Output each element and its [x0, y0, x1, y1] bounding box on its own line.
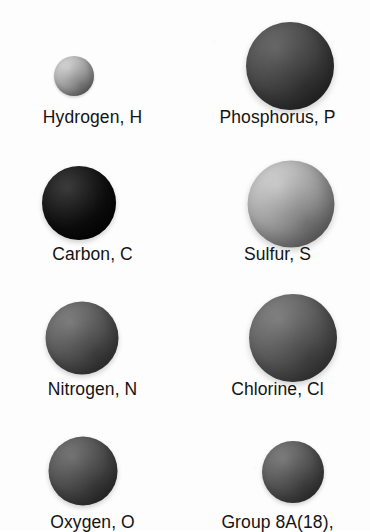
atom-sphere-nitrogen: [46, 302, 119, 375]
atom-label-phosphorus: Phosphorus, P: [185, 107, 370, 127]
atom-label-group-8a: Group 8A(18),: [185, 512, 370, 532]
atom-sphere-oxygen: [49, 437, 118, 506]
atom-sphere-hydrogen: [54, 56, 94, 96]
atom-sphere-group-8a: [262, 441, 324, 503]
atom-label-carbon: Carbon, C: [0, 244, 185, 264]
atom-label-chlorine: Chlorine, Cl: [185, 379, 370, 399]
atom-label-oxygen: Oxygen, O: [0, 512, 185, 532]
atom-sphere-chlorine: [249, 294, 337, 382]
atom-label-sulfur: Sulfur, S: [185, 244, 370, 264]
atom-sphere-carbon: [42, 166, 116, 240]
atom-label-hydrogen: Hydrogen, H: [0, 107, 185, 127]
atom-label-nitrogen: Nitrogen, N: [0, 379, 185, 399]
atom-sphere-phosphorus: [246, 22, 334, 110]
atom-sphere-sulfur: [248, 161, 335, 248]
